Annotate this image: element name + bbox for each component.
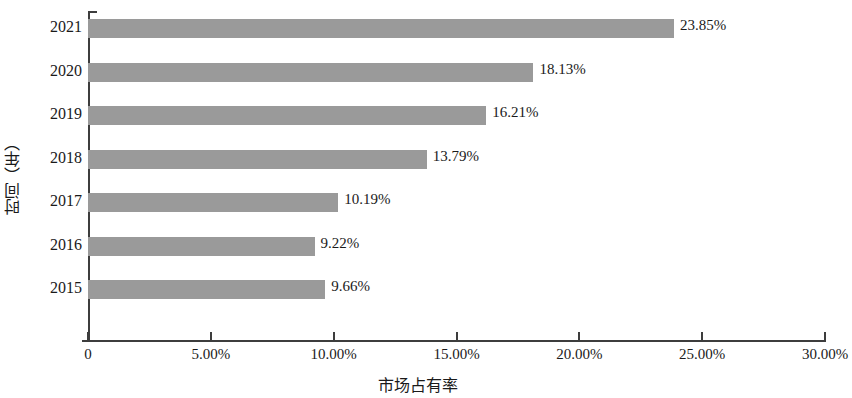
y-axis-category-label: 2019 [28, 105, 82, 123]
bar-chart: 时间（年） 05.00%10.00%15.00%20.00%25.00%30.0… [0, 0, 852, 398]
x-axis-tick-label: 10.00% [311, 346, 357, 363]
bar-row: 9.22% [88, 233, 825, 261]
bar-value-label: 16.21% [492, 104, 538, 121]
bar-row: 9.66% [88, 276, 825, 304]
x-axis-tick-label: 5.00% [191, 346, 230, 363]
x-axis-tick [87, 332, 89, 341]
bar-value-label: 10.19% [344, 191, 390, 208]
y-axis-category-label: 2015 [28, 279, 82, 297]
bar [88, 63, 533, 82]
y-axis-title-text: 时间（年） [6, 135, 22, 215]
bar-row: 18.13% [88, 59, 825, 87]
y-axis-category-label: 2017 [28, 192, 82, 210]
y-axis-category-label: 2020 [28, 62, 82, 80]
x-axis-tick [824, 332, 826, 341]
bar [88, 237, 315, 256]
y-axis-category-label: 2016 [28, 236, 82, 254]
x-axis-tick [456, 332, 458, 341]
bar-row: 16.21% [88, 102, 825, 130]
x-axis-tick-label: 25.00% [679, 346, 725, 363]
x-axis-tick [333, 332, 335, 341]
bar [88, 193, 338, 212]
bar-row: 23.85% [88, 15, 825, 43]
x-axis-tick-label: 15.00% [433, 346, 479, 363]
bar [88, 280, 325, 299]
x-axis-tick [701, 332, 703, 341]
x-axis-tick-label: 30.00% [802, 346, 848, 363]
bar-value-label: 13.79% [433, 148, 479, 165]
bar-value-label: 9.66% [331, 278, 370, 295]
y-axis-top-cap [88, 11, 97, 13]
x-axis-title-text: 市场占有率 [378, 372, 458, 396]
x-axis-title: 市场占有率 [0, 372, 852, 396]
x-axis-tick-label: 20.00% [556, 346, 602, 363]
y-axis-category-label: 2018 [28, 149, 82, 167]
y-axis-title: 时间（年） [0, 0, 28, 350]
bar-row: 10.19% [88, 189, 825, 217]
bar [88, 19, 674, 38]
bar-value-label: 18.13% [539, 61, 585, 78]
y-axis-category-label: 2021 [28, 18, 82, 36]
bar [88, 106, 486, 125]
bar-value-label: 23.85% [680, 17, 726, 34]
bar [88, 150, 427, 169]
bar-value-label: 9.22% [321, 235, 360, 252]
x-axis-tick [210, 332, 212, 341]
x-axis-tick [578, 332, 580, 341]
x-axis-tick-label: 0 [84, 346, 92, 363]
bar-row: 13.79% [88, 146, 825, 174]
